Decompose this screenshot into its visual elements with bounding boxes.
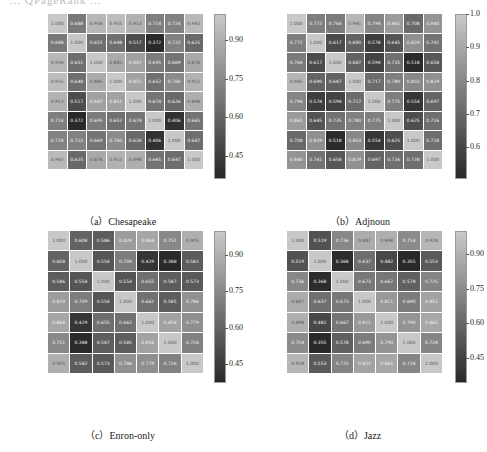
- heatmap-cell: 0.673: [354, 272, 375, 291]
- heatmap-cell: 0.652: [146, 73, 165, 92]
- heatmap-cell: 0.775: [385, 92, 404, 111]
- heatmap-cell: 0.741: [424, 34, 443, 53]
- heatmap-cell: 0.688: [68, 14, 87, 33]
- heatmap-cell: 0.887: [287, 292, 308, 311]
- heatmap-cell: 0.803: [404, 73, 423, 92]
- heatmap-cell: 0.586: [93, 231, 114, 250]
- heatmap-cell: 0.898: [287, 313, 308, 332]
- heatmap-cell: 0.829: [346, 151, 365, 170]
- heatmap-cell: 0.674: [126, 112, 145, 131]
- heatmap-cell: 0.865: [421, 313, 442, 332]
- heatmap-cell: 0.697: [365, 151, 384, 170]
- colorbar-tick: 0.75: [229, 286, 243, 295]
- heatmap-cell: 0.688: [48, 34, 67, 53]
- heatmap-cell: 1.000: [107, 73, 126, 92]
- heatmap-cell: 0.794: [365, 14, 384, 33]
- heatmap-cell: 0.775: [365, 112, 384, 131]
- heatmap-cell: 0.582: [70, 354, 91, 373]
- heatmap-cell: 0.667: [332, 313, 353, 332]
- colorbar-tick: 0.60: [229, 112, 243, 121]
- colorbar: [214, 231, 226, 383]
- heatmap-cell: 0.885: [87, 73, 106, 92]
- heatmap-cell: 0.934: [87, 14, 106, 33]
- heatmap-cell: 0.754: [287, 333, 308, 352]
- heatmap-cell: 0.637: [309, 292, 330, 311]
- heatmap-cell: 0.658: [424, 53, 443, 72]
- heatmap-cell: 0.355: [309, 333, 330, 352]
- heatmap-cell: 0.780: [346, 112, 365, 131]
- heatmap-cell: 0.786: [182, 292, 203, 311]
- heatmap-cell: 0.554: [115, 272, 136, 291]
- heatmap-cell: 0.665: [185, 112, 204, 131]
- colorbar-tick: 0.9: [470, 42, 480, 51]
- heatmap-cell: 0.912: [107, 151, 126, 170]
- heatmap-cell: 0.724: [48, 131, 67, 150]
- heatmap-cell: 0.578: [307, 92, 326, 111]
- heatmap-cell: 0.847: [126, 53, 145, 72]
- heatmap-cell: 0.578: [332, 333, 353, 352]
- heatmap-cell: 0.587: [159, 272, 180, 291]
- heatmap-cell: 0.725: [421, 272, 442, 291]
- heatmap-cell: 0.772: [307, 14, 326, 33]
- heatmap-cell: 1.000: [48, 231, 69, 250]
- heatmap-cell: 1.000: [421, 354, 442, 373]
- heatmap-cell: 0.587: [93, 333, 114, 352]
- colorbar-tick: 0.45: [229, 151, 243, 160]
- colorbar-tick: 1.0: [470, 9, 480, 18]
- heatmap-cell: 0.585: [115, 333, 136, 352]
- heatmap-cell: 0.582: [182, 251, 203, 270]
- truncated-header-text: ... QPageRank ...: [10, 0, 102, 6]
- heatmap-cell: 0.690: [346, 34, 365, 53]
- heatmap-cell: 0.651: [87, 34, 106, 53]
- heatmap-cell: 1.000: [87, 53, 106, 72]
- heatmap-cell: 0.728: [421, 333, 442, 352]
- colorbar-tick: 0.75: [229, 74, 243, 83]
- heatmap-cell: 0.645: [307, 112, 326, 131]
- heatmap-cell: 0.617: [326, 34, 345, 53]
- heatmap-cell: 0.652: [107, 112, 126, 131]
- heatmap-cell: 0.760: [107, 131, 126, 150]
- heatmap-cell: 0.876: [185, 53, 204, 72]
- heatmap-cell: 0.725: [332, 354, 353, 373]
- heatmap-cell: 0.690: [307, 73, 326, 92]
- heatmap-cell: 1.000: [346, 73, 365, 92]
- heatmap-cell: 0.673: [332, 292, 353, 311]
- heatmap-cell: 0.645: [385, 34, 404, 53]
- heatmap-cell: 0.429: [137, 251, 158, 270]
- heatmap-cell: 0.736: [287, 272, 308, 291]
- colorbar-tick: 0.6: [470, 142, 480, 151]
- heatmap-cell: 0.406: [146, 131, 165, 150]
- heatmap-cell: 0.648: [68, 73, 87, 92]
- heatmap-cell: 0.717: [365, 73, 384, 92]
- heatmap-cell: 0.928: [421, 231, 442, 250]
- heatmap-cell: 0.517: [126, 34, 145, 53]
- heatmap-cell: 0.760: [165, 73, 184, 92]
- heatmap-cell: 0.709: [70, 292, 91, 311]
- heatmap-cell: 0.519: [309, 231, 330, 250]
- heatmap-cell: 0.554: [404, 92, 423, 111]
- heatmap-cell: 0.690: [354, 333, 375, 352]
- heatmap-cell: 0.868: [48, 313, 69, 332]
- heatmap-cell: 0.519: [287, 251, 308, 270]
- heatmap-cell: 0.722: [165, 34, 184, 53]
- heatmap-cell: 1.000: [287, 14, 306, 33]
- heatmap-cell: 0.868: [137, 231, 158, 250]
- heatmap-cell: 0.647: [165, 151, 184, 170]
- heatmap-cell: 0.829: [404, 34, 423, 53]
- panel-caption: （a）Chesapeake: [80, 213, 160, 228]
- heatmap-cell: 0.518: [404, 53, 423, 72]
- heatmap-cell: 0.372: [146, 34, 165, 53]
- heatmap-cell: 0.736: [332, 231, 353, 250]
- colorbar-tick: 0.60: [470, 318, 484, 327]
- heatmap-cell: 0.368: [332, 251, 353, 270]
- heatmap-cell: 0.722: [68, 131, 87, 150]
- heatmap-cell: 0.728: [398, 354, 419, 373]
- heatmap-cell: 0.482: [376, 251, 397, 270]
- heatmap-cell: 0.648: [107, 34, 126, 53]
- colorbar-tick: 0.90: [229, 35, 243, 44]
- heatmap-cell: 0.717: [346, 92, 365, 111]
- heatmap-cell: 0.751: [48, 333, 69, 352]
- heatmap-cell: 0.751: [159, 231, 180, 250]
- heatmap-cell: 0.942: [48, 151, 67, 170]
- heatmap-cell: 1.000: [93, 272, 114, 291]
